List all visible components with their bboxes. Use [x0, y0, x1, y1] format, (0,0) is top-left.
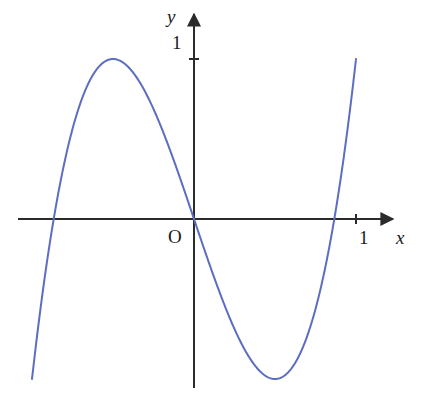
y-tick-label-1: 1: [172, 33, 182, 52]
x-axis-label: x: [396, 228, 404, 247]
x-tick-label-1: 1: [359, 228, 369, 247]
plot-canvas: [0, 0, 425, 395]
lissajous-figure: y x 1 1 O: [0, 0, 425, 395]
y-axis-label: y: [167, 7, 175, 26]
origin-label: O: [168, 227, 182, 246]
